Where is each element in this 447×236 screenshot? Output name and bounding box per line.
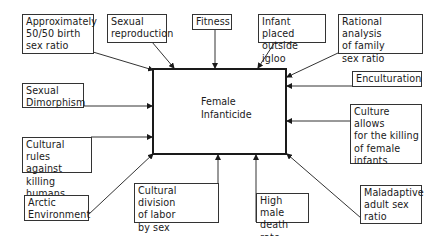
node-maladaptive-sex-ratio: Maladaptive adult sex ratio (360, 185, 422, 224)
central-node-label: Female Infanticide (201, 96, 252, 121)
node-birth-sex-ratio: Approximately 50/50 birth sex ratio (22, 14, 94, 54)
node-sexual-dimorphism: Sexual Dimorphism (22, 83, 84, 108)
node-sexual-reproduction: Sexual reproduction (107, 14, 167, 43)
node-culture-allows-killing: Culture allows for the killing of female… (350, 104, 422, 164)
central-node-female-infanticide: Female Infanticide (152, 68, 287, 155)
node-fitness: Fitness (192, 14, 232, 30)
node-rational-analysis: Rational analysis of family sex ratio (338, 14, 423, 54)
node-division-of-labor: Cultural division of labor by sex (134, 183, 219, 223)
node-high-male-death-rate: High male death rate (256, 193, 309, 223)
node-infant-outside-igloo: Infant placed outside igloo (258, 14, 326, 43)
node-cultural-rules: Cultural rules against killing humans (22, 137, 92, 173)
node-enculturation: Enculturation (352, 71, 422, 87)
node-arctic-environment: Arctic Environment (24, 195, 89, 221)
